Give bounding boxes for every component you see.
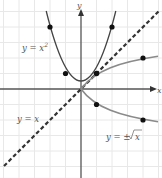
- y-axis-arrow-icon: [78, 9, 84, 16]
- point-shared-1-1: [94, 71, 100, 77]
- parabola-label: y = x2: [21, 41, 48, 53]
- svg-text:x: x: [135, 132, 140, 142]
- point-sqrt-1-neg1: [94, 102, 99, 107]
- point-parabola-neg2-4: [47, 24, 52, 29]
- y-axis-label: y: [76, 1, 82, 10]
- point-sqrt-4-2: [140, 55, 145, 60]
- point-parabola-2-4: [109, 24, 114, 29]
- svg-text:y = ±: y = ±: [105, 132, 130, 142]
- x-axis-arrow-icon: [150, 86, 157, 92]
- function-reflection-diagram: x y y = x2 y = x y = ± x: [0, 0, 162, 178]
- identity-label: y = x: [16, 114, 39, 124]
- point-parabola-neg1-1: [63, 71, 68, 76]
- x-axis-label: x: [157, 86, 162, 95]
- sqrt-label: y = ± x: [105, 130, 142, 142]
- point-sqrt-4-neg2: [140, 117, 145, 122]
